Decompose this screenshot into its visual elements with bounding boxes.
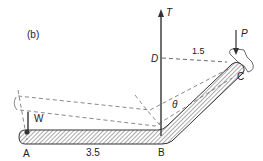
load-label: P bbox=[241, 28, 248, 39]
pin-icon bbox=[25, 130, 30, 135]
point-b-label: B bbox=[158, 147, 165, 158]
dimension-ab-label: 3.5 bbox=[86, 147, 100, 158]
point-c-label: C bbox=[237, 71, 244, 82]
panel-label: (b) bbox=[27, 29, 39, 40]
bent-bar-diagram: (b) T D 1.5 P C θ W A B 3.5 bbox=[0, 0, 263, 161]
arrow-down-icon bbox=[233, 48, 239, 55]
rotation-arc bbox=[14, 97, 17, 110]
point-a-label: A bbox=[23, 148, 30, 159]
point-d-label: D bbox=[151, 53, 158, 64]
dimension-dc-label: 1.5 bbox=[192, 46, 205, 56]
angle-label: θ bbox=[172, 99, 178, 110]
dimension-line-dc bbox=[162, 58, 227, 62]
tension-rope bbox=[158, 9, 164, 136]
weight-arrow bbox=[25, 112, 30, 135]
load-arrow bbox=[233, 30, 239, 55]
bent-bar bbox=[19, 62, 244, 144]
arrow-up-icon bbox=[158, 9, 164, 17]
tension-label: T bbox=[166, 7, 173, 18]
weight-label: W bbox=[34, 113, 44, 124]
